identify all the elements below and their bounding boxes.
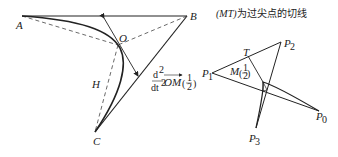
svg-text:2: 2 — [159, 64, 164, 75]
line-P2P3 — [256, 42, 281, 128]
label-C: C — [93, 135, 101, 147]
svg-text:dt: dt — [151, 82, 159, 93]
figure: A B O C H d 2 dt 2 OM ( 1 2 ) (MT)为过尖点的切… — [0, 0, 338, 157]
line-BC — [95, 16, 187, 132]
svg-text:OM: OM — [164, 76, 182, 88]
label-B: B — [190, 10, 197, 22]
label-O: O — [119, 32, 127, 44]
svg-text:): ) — [247, 68, 250, 80]
right-diagram: (MT)为过尖点的切线 P 1 P 2 P 0 P 3 T M ( 1 2 ) — [201, 7, 327, 147]
svg-text:3: 3 — [255, 136, 260, 147]
svg-text:d: d — [153, 69, 158, 80]
normal-arrow — [104, 18, 138, 76]
svg-text:1: 1 — [208, 71, 213, 82]
svg-text:2: 2 — [290, 41, 295, 52]
line-P1P0 — [212, 73, 319, 111]
svg-text:): ) — [193, 78, 196, 90]
dashed-AO — [22, 16, 118, 45]
diagram-canvas: A B O C H d 2 dt 2 OM ( 1 2 ) (MT)为过尖点的切… — [0, 0, 338, 157]
svg-text:(: ( — [182, 78, 186, 90]
derivative-label: d 2 dt 2 OM ( 1 2 ) — [151, 64, 196, 93]
left-diagram: A B O C H d 2 dt 2 OM ( 1 2 ) — [15, 10, 197, 147]
label-H: H — [91, 78, 101, 90]
cusp-curve — [256, 82, 319, 128]
label-A: A — [15, 19, 23, 31]
dashed-BO — [118, 16, 187, 45]
caption: (MT)为过尖点的切线 — [216, 7, 307, 20]
svg-text:0: 0 — [322, 114, 327, 125]
label-T: T — [243, 46, 250, 58]
svg-text:2: 2 — [187, 81, 192, 92]
